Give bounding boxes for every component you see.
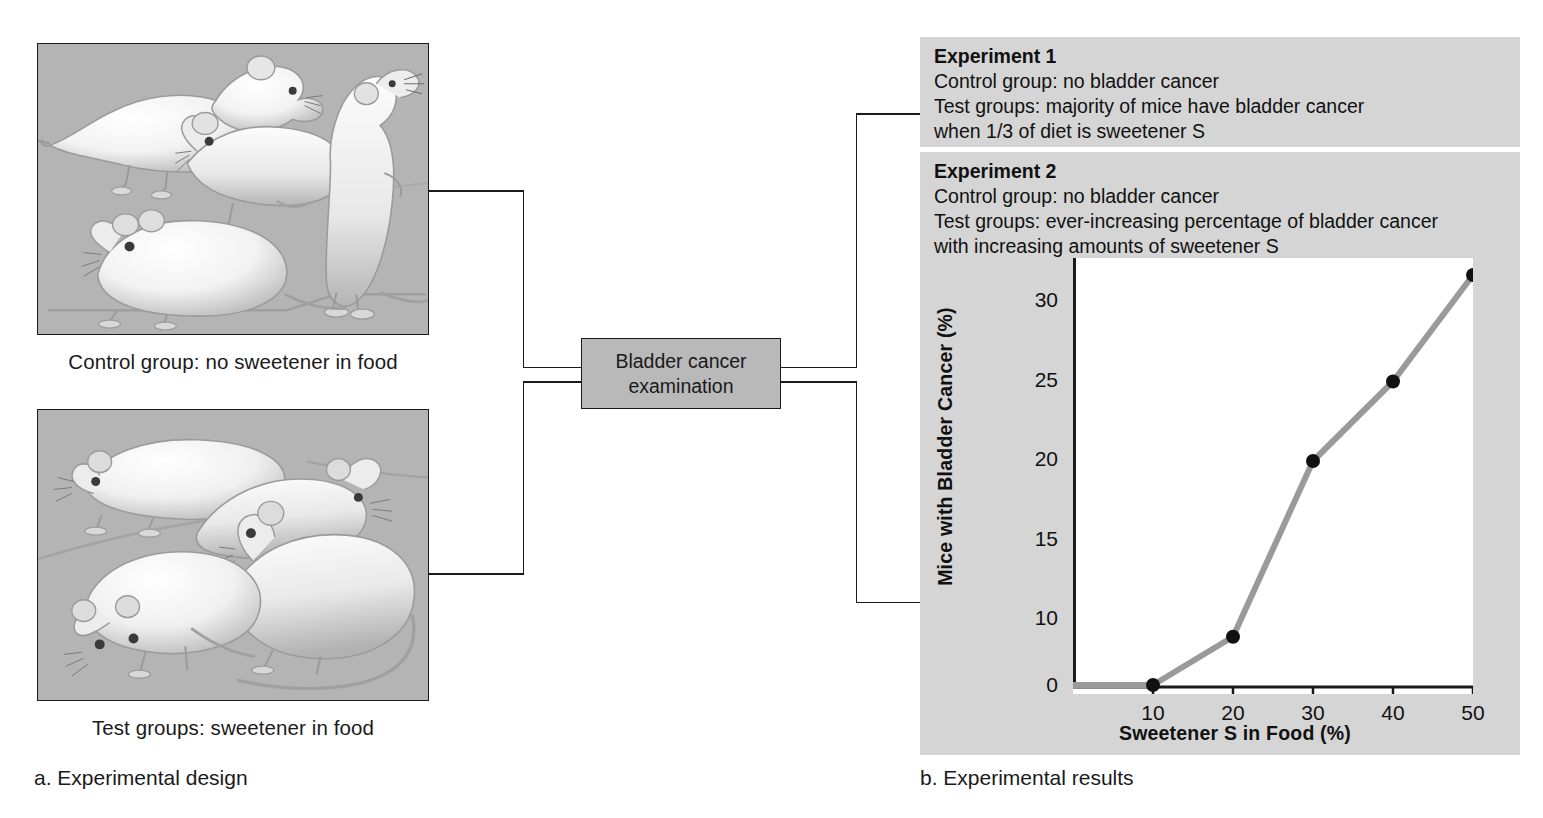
part-b-label: b. Experimental results [920,766,1134,790]
experiment-2-line-1: Control group: no bladder cancer [934,184,1508,209]
connector-to-exp2 [856,602,922,604]
chart-y-tick-15: 15 [1003,527,1058,551]
experiment-1-title: Experiment 1 [934,45,1508,68]
experiment-1-line-2: Test groups: majority of mice have bladd… [934,94,1508,119]
chart-plot-area [1073,258,1473,694]
connector-control-stub [429,190,524,192]
connector-test-stub [429,573,524,575]
mice-drawing-test [38,410,428,700]
mice-drawing-control [38,44,428,334]
results-line-chart: Mice with Bladder Cancer (%) Sweetener S… [920,250,1520,755]
control-group-mice-illustration [37,43,429,335]
experiment-2-line-2: Test groups: ever-increasing percentage … [934,209,1508,234]
exam-box-line-2: examination [628,375,733,397]
connector-left-vertical-2 [523,381,525,574]
chart-y-tick-20: 20 [1003,447,1058,471]
connector-from-box-upper [781,367,857,369]
test-group-caption: Test groups: sweetener in food [37,716,429,740]
connector-right-vertical-2 [856,381,858,603]
experiment-1-line-1: Control group: no bladder cancer [934,69,1508,94]
chart-x-tick-40: 40 [1368,701,1418,725]
chart-y-tick-30: 30 [1003,288,1058,312]
chart-x-axis-title: Sweetener S in Food (%) [1010,722,1460,745]
connector-to-exp1 [856,113,922,115]
chart-y-tick-25: 25 [1003,368,1058,392]
control-group-caption: Control group: no sweetener in food [37,350,429,374]
connector-from-box-lower [781,381,857,383]
chart-svg [1073,258,1473,694]
experiment-1-panel: Experiment 1 Control group: no bladder c… [920,37,1520,147]
test-group-mice-illustration [37,409,429,701]
bladder-cancer-examination-box: Bladder cancer examination [581,338,781,409]
chart-x-tick-50: 50 [1448,701,1498,725]
connector-to-box-upper [523,367,583,369]
experiment-1-line-3: when 1/3 of diet is sweetener S [934,119,1508,144]
connector-left-vertical [523,190,525,368]
connector-to-box-lower [523,381,583,383]
chart-y-tick-0: 0 [1003,673,1058,697]
exam-box-line-1: Bladder cancer [615,350,746,372]
chart-x-tick-10: 10 [1128,701,1178,725]
chart-y-tick-10: 10 [1003,606,1058,630]
connector-right-vertical-1 [856,113,858,368]
experiment-2-title: Experiment 2 [934,160,1508,183]
part-a-label: a. Experimental design [34,766,248,790]
chart-x-tick-20: 20 [1208,701,1258,725]
chart-x-tick-30: 30 [1288,701,1338,725]
chart-y-axis-title: Mice with Bladder Cancer (%) [934,282,957,612]
